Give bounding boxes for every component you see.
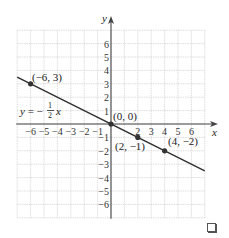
data-point xyxy=(162,148,167,153)
y-tick-label: −2 xyxy=(98,146,109,157)
y-tick-label: 5 xyxy=(104,52,109,63)
x-tick-label: −4 xyxy=(52,126,63,137)
x-tick-label: −6 xyxy=(25,126,36,137)
y-tick-label: −4 xyxy=(98,173,109,184)
equation-numerator: 1 xyxy=(48,101,52,110)
equation-variable: x xyxy=(55,105,61,117)
x-tick-label: −2 xyxy=(79,126,90,137)
point-label-origin: (0, 0) xyxy=(113,110,137,123)
y-tick-label: −5 xyxy=(98,186,109,197)
y-axis-label: y xyxy=(101,12,107,24)
point-label-4-neg2: (4, −2) xyxy=(168,135,198,148)
x-tick-label: −3 xyxy=(65,126,76,137)
equation-denominator: 2 xyxy=(48,111,52,120)
y-tick-label: −1 xyxy=(98,132,109,143)
y-tick-label: 1 xyxy=(104,106,109,117)
point-label-neg6-3: (−6, 3) xyxy=(32,71,62,84)
point-label-2-neg1: (2, −1) xyxy=(115,140,145,153)
y-tick-label: −6 xyxy=(98,199,109,210)
y-tick-label: 4 xyxy=(104,65,109,76)
y-tick-label: 6 xyxy=(104,39,109,50)
equation-prefix: y = − xyxy=(19,105,43,117)
x-axis-label: x xyxy=(211,126,217,138)
y-tick-label: 2 xyxy=(104,92,109,103)
data-point xyxy=(108,121,113,126)
x-tick-label: −5 xyxy=(39,126,50,137)
coordinate-plane: −6−5−4−3−2−123456654321−1−2−3−4−5−6 y x … xyxy=(0,0,229,238)
end-of-proof-box-icon xyxy=(207,223,216,232)
x-tick-label: 4 xyxy=(162,126,167,137)
y-tick-label: 3 xyxy=(104,79,109,90)
y-tick-label: −3 xyxy=(98,159,109,170)
x-tick-label: 3 xyxy=(149,126,154,137)
